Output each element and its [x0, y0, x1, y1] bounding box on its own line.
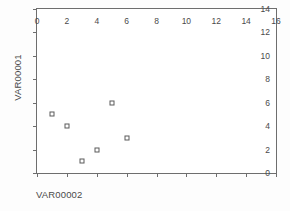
data-point — [64, 124, 69, 129]
data-point — [79, 159, 84, 164]
y-tick-label: 8 — [265, 74, 270, 84]
x-tick-label: 2 — [65, 16, 70, 26]
y-tick-mark — [33, 173, 37, 174]
x-axis: 0246810121416 — [37, 9, 276, 173]
x-tick-label: 12 — [212, 16, 221, 26]
data-point — [94, 147, 99, 152]
x-tick-label: 8 — [154, 16, 159, 26]
y-tick-mark — [33, 32, 37, 33]
y-tick-mark — [33, 103, 37, 104]
y-tick-mark — [33, 150, 37, 151]
data-point — [109, 100, 114, 105]
x-tick-mark — [186, 173, 187, 177]
y-tick-label: 4 — [265, 121, 270, 131]
x-axis-title: VAR00002 — [36, 189, 82, 200]
y-axis: 02468101214 — [37, 9, 276, 173]
x-tick-mark — [37, 173, 38, 177]
y-tick-mark — [33, 9, 37, 10]
y-tick-label: 10 — [261, 51, 270, 61]
x-tick-mark — [246, 173, 247, 177]
x-tick-mark — [127, 173, 128, 177]
y-tick-mark — [33, 126, 37, 127]
x-tick-mark — [216, 173, 217, 177]
data-point — [49, 112, 54, 117]
y-tick-mark — [33, 79, 37, 80]
x-tick-mark — [97, 173, 98, 177]
y-tick-label: 2 — [265, 145, 270, 155]
data-point — [124, 135, 129, 140]
x-tick-mark — [67, 173, 68, 177]
x-tick-label: 16 — [271, 16, 280, 26]
scatter-plot-figure: VAR00001 VAR00002 02468101214 0246810121… — [0, 0, 290, 211]
x-tick-label: 4 — [94, 16, 99, 26]
y-tick-label: 0 — [265, 168, 270, 178]
y-axis-title: VAR00001 — [12, 28, 23, 128]
y-tick-label: 6 — [265, 98, 270, 108]
y-tick-label: 12 — [261, 27, 270, 37]
y-tick-label: 14 — [261, 4, 270, 14]
x-tick-label: 6 — [124, 16, 129, 26]
plot-area: 02468101214 0246810121416 — [36, 8, 277, 174]
x-tick-label: 10 — [182, 16, 191, 26]
x-tick-mark — [157, 173, 158, 177]
x-tick-label: 14 — [241, 16, 250, 26]
x-tick-label: 0 — [35, 16, 40, 26]
y-tick-mark — [33, 56, 37, 57]
x-tick-mark — [276, 173, 277, 177]
